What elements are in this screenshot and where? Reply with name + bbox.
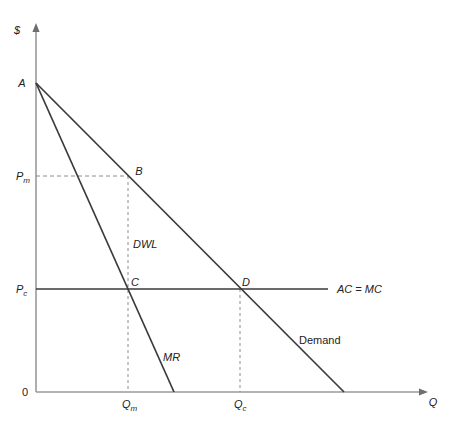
economics-diagram: $ Q 0 Pm Pc Qm Qc A B C D DWL MR Demand … — [0, 0, 452, 425]
point-label-b: B — [135, 165, 142, 177]
x-axis-label: Q — [429, 396, 438, 408]
y-axis-label: $ — [13, 24, 21, 36]
mr-curve-label: MR — [163, 351, 180, 363]
point-label-d: D — [242, 276, 250, 288]
y-axis-arrow-icon — [32, 23, 39, 32]
x-axis-arrow-icon — [419, 388, 428, 395]
demand-curve — [36, 83, 344, 392]
y-tick-pc-subscript: c — [23, 289, 27, 298]
point-label-a: A — [17, 77, 25, 89]
x-tick-qc-subscript: c — [243, 404, 247, 413]
origin-label: 0 — [22, 386, 28, 398]
dwl-region-label: DWL — [133, 238, 157, 250]
y-tick-pm-subscript: m — [23, 176, 30, 185]
y-tick-pm: Pm — [16, 170, 30, 185]
x-tick-qc: Qc — [234, 398, 247, 413]
y-tick-pc: Pc — [16, 283, 27, 298]
point-label-c: C — [131, 276, 139, 288]
demand-curve-label: Demand — [299, 334, 341, 346]
x-tick-qm: Qm — [122, 398, 138, 413]
curves-group — [36, 83, 344, 392]
ac-mc-curve-label: AC = MC — [336, 283, 382, 295]
x-tick-qm-subscript: m — [131, 404, 138, 413]
diagram-canvas: $ Q 0 Pm Pc Qm Qc A B C D DWL MR Demand … — [0, 0, 452, 425]
